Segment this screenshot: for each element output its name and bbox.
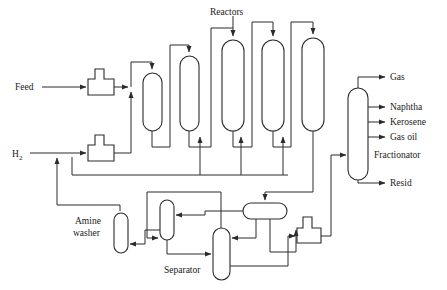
gas-label: Gas [390, 72, 405, 82]
fractionator-label: Fractionator [374, 150, 421, 160]
amine-washer-label-line2: washer [73, 228, 101, 238]
stream-h2-makeup-tee [57, 158, 120, 211]
stream-reactor1-to-reactor2 [152, 45, 189, 147]
stream-h2-quench-header [72, 157, 288, 175]
stream-h2-discharge [114, 92, 131, 153]
process-flow-diagram: Feed H2 Reactors Amine washer Separator … [0, 0, 447, 290]
separator-column [213, 228, 230, 280]
stream-to-reactor-1 [131, 62, 152, 87]
feed-label: Feed [15, 82, 34, 92]
separator-label: Separator [164, 265, 201, 275]
hydrogen-pump [88, 135, 114, 161]
stream-separator-bottoms [230, 236, 295, 266]
stream-resid-product [358, 180, 385, 183]
gas-oil-label: Gas oil [390, 132, 418, 142]
stream-gas-product [358, 77, 385, 88]
bottoms-pump [297, 217, 321, 243]
pfd-canvas: Feed H2 Reactors Amine washer Separator … [0, 0, 447, 290]
stream-reactor5-effluent [265, 131, 313, 200]
stream-reactor4-to-reactor5 [273, 22, 313, 147]
amine-washer-column [114, 213, 128, 253]
stream-reactor3-to-reactor4 [233, 22, 273, 147]
reactor-1 [143, 73, 162, 131]
stream-drum-to-separator [232, 219, 256, 238]
amine-washer-label-line1: Amine [75, 216, 101, 226]
overhead-drum [243, 203, 287, 219]
hydrogen-label: H2 [12, 149, 23, 162]
stream-stripper-bottom [167, 240, 211, 254]
reactors-label: Reactors [210, 7, 244, 17]
reactor-5 [302, 38, 324, 131]
naphtha-label: Naphtha [390, 102, 423, 112]
stream-to-amine-washer [130, 230, 160, 244]
stream-pump-to-fractionator [321, 155, 346, 236]
stream-to-stripper [176, 211, 243, 215]
resid-label: Resid [390, 178, 412, 188]
kerosene-label: Kerosene [390, 117, 426, 127]
reactor-3 [222, 40, 244, 131]
reactor-2 [180, 56, 199, 131]
reactor-4 [262, 40, 284, 131]
fractionator-column [348, 88, 368, 180]
feed-pump [88, 69, 114, 95]
stripper-column [160, 200, 174, 240]
